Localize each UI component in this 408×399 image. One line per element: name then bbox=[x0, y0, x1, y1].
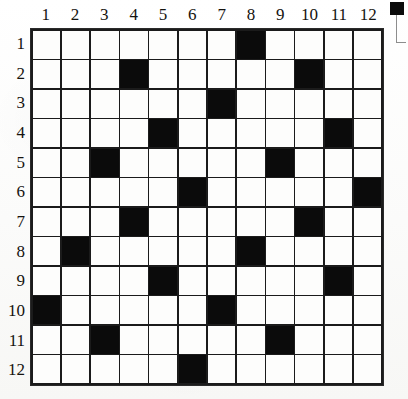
grid-cell-r9c4[interactable] bbox=[120, 267, 148, 295]
grid-cell-r9c8[interactable] bbox=[237, 267, 265, 295]
grid-cell-r12c5[interactable] bbox=[149, 355, 177, 383]
grid-cell-r7c6[interactable] bbox=[179, 208, 207, 236]
grid-cell-r12c6[interactable] bbox=[179, 355, 207, 383]
grid-cell-r11c10[interactable] bbox=[295, 326, 323, 354]
grid-cell-r9c1[interactable] bbox=[33, 267, 61, 295]
grid-cell-r2c9[interactable] bbox=[266, 60, 294, 88]
grid-cell-r4c8[interactable] bbox=[237, 119, 265, 147]
grid-cell-r8c2[interactable] bbox=[62, 237, 90, 265]
grid-cell-r2c1[interactable] bbox=[33, 60, 61, 88]
grid-cell-r7c7[interactable] bbox=[208, 208, 236, 236]
grid-cell-r9c10[interactable] bbox=[295, 267, 323, 295]
grid-cell-r1c1[interactable] bbox=[33, 31, 61, 59]
grid-cell-r4c12[interactable] bbox=[354, 119, 382, 147]
grid-cell-r9c9[interactable] bbox=[266, 267, 294, 295]
grid-cell-r5c8[interactable] bbox=[237, 149, 265, 177]
grid-cell-r12c8[interactable] bbox=[237, 355, 265, 383]
grid-cell-r12c10[interactable] bbox=[295, 355, 323, 383]
grid-cell-r8c1[interactable] bbox=[33, 237, 61, 265]
grid-cell-r10c3[interactable] bbox=[91, 296, 119, 324]
grid-cell-r7c12[interactable] bbox=[354, 208, 382, 236]
grid-cell-r11c6[interactable] bbox=[179, 326, 207, 354]
grid-cell-r4c10[interactable] bbox=[295, 119, 323, 147]
grid-cell-r9c12[interactable] bbox=[354, 267, 382, 295]
grid-cell-r2c7[interactable] bbox=[208, 60, 236, 88]
grid-cell-r12c4[interactable] bbox=[120, 355, 148, 383]
grid-cell-r3c1[interactable] bbox=[33, 90, 61, 118]
grid-cell-r6c7[interactable] bbox=[208, 178, 236, 206]
grid-cell-r3c8[interactable] bbox=[237, 90, 265, 118]
grid-cell-r6c1[interactable] bbox=[33, 178, 61, 206]
grid-cell-r10c12[interactable] bbox=[354, 296, 382, 324]
grid-cell-r11c2[interactable] bbox=[62, 326, 90, 354]
grid-cell-r9c5[interactable] bbox=[149, 267, 177, 295]
grid-cell-r11c5[interactable] bbox=[149, 326, 177, 354]
grid-cell-r12c7[interactable] bbox=[208, 355, 236, 383]
grid-cell-r3c6[interactable] bbox=[179, 90, 207, 118]
grid-cell-r8c10[interactable] bbox=[295, 237, 323, 265]
grid-cell-r1c2[interactable] bbox=[62, 31, 90, 59]
grid-cell-r6c6[interactable] bbox=[179, 178, 207, 206]
grid-cell-r7c1[interactable] bbox=[33, 208, 61, 236]
grid-cell-r8c9[interactable] bbox=[266, 237, 294, 265]
grid-cell-r9c6[interactable] bbox=[179, 267, 207, 295]
grid-cell-r12c12[interactable] bbox=[354, 355, 382, 383]
grid-cell-r10c10[interactable] bbox=[295, 296, 323, 324]
grid-cell-r1c8[interactable] bbox=[237, 31, 265, 59]
grid-cell-r4c4[interactable] bbox=[120, 119, 148, 147]
grid-cell-r2c3[interactable] bbox=[91, 60, 119, 88]
grid-cell-r3c10[interactable] bbox=[295, 90, 323, 118]
grid-cell-r11c12[interactable] bbox=[354, 326, 382, 354]
grid-cell-r11c3[interactable] bbox=[91, 326, 119, 354]
grid-cell-r3c2[interactable] bbox=[62, 90, 90, 118]
grid-cell-r7c10[interactable] bbox=[295, 208, 323, 236]
grid-cell-r5c7[interactable] bbox=[208, 149, 236, 177]
grid-cell-r7c9[interactable] bbox=[266, 208, 294, 236]
grid-cell-r8c6[interactable] bbox=[179, 237, 207, 265]
grid-cell-r11c7[interactable] bbox=[208, 326, 236, 354]
grid-cell-r1c4[interactable] bbox=[120, 31, 148, 59]
grid-cell-r9c7[interactable] bbox=[208, 267, 236, 295]
grid-cell-r11c11[interactable] bbox=[325, 326, 353, 354]
grid-cell-r7c4[interactable] bbox=[120, 208, 148, 236]
grid-cell-r10c11[interactable] bbox=[325, 296, 353, 324]
grid-cell-r5c2[interactable] bbox=[62, 149, 90, 177]
grid-cell-r8c11[interactable] bbox=[325, 237, 353, 265]
grid-cell-r1c10[interactable] bbox=[295, 31, 323, 59]
grid-cell-r2c2[interactable] bbox=[62, 60, 90, 88]
grid-cell-r5c9[interactable] bbox=[266, 149, 294, 177]
grid-cell-r5c10[interactable] bbox=[295, 149, 323, 177]
grid-cell-r10c5[interactable] bbox=[149, 296, 177, 324]
grid-cell-r4c3[interactable] bbox=[91, 119, 119, 147]
grid-cell-r2c5[interactable] bbox=[149, 60, 177, 88]
grid-cell-r1c5[interactable] bbox=[149, 31, 177, 59]
grid-cell-r6c4[interactable] bbox=[120, 178, 148, 206]
grid-cell-r10c9[interactable] bbox=[266, 296, 294, 324]
grid-cell-r12c1[interactable] bbox=[33, 355, 61, 383]
grid-cell-r3c7[interactable] bbox=[208, 90, 236, 118]
grid-cell-r10c4[interactable] bbox=[120, 296, 148, 324]
grid-cell-r10c8[interactable] bbox=[237, 296, 265, 324]
grid-cell-r10c7[interactable] bbox=[208, 296, 236, 324]
grid-cell-r3c9[interactable] bbox=[266, 90, 294, 118]
grid-cell-r10c2[interactable] bbox=[62, 296, 90, 324]
grid-cell-r2c8[interactable] bbox=[237, 60, 265, 88]
grid-cell-r2c4[interactable] bbox=[120, 60, 148, 88]
grid-cell-r4c2[interactable] bbox=[62, 119, 90, 147]
grid-cell-r3c11[interactable] bbox=[325, 90, 353, 118]
grid-cell-r5c5[interactable] bbox=[149, 149, 177, 177]
grid-cell-r6c9[interactable] bbox=[266, 178, 294, 206]
grid-cell-r2c12[interactable] bbox=[354, 60, 382, 88]
grid-cell-r6c8[interactable] bbox=[237, 178, 265, 206]
grid-cell-r5c1[interactable] bbox=[33, 149, 61, 177]
grid-cell-r3c3[interactable] bbox=[91, 90, 119, 118]
grid-cell-r8c4[interactable] bbox=[120, 237, 148, 265]
grid-cell-r7c5[interactable] bbox=[149, 208, 177, 236]
puzzle-grid[interactable] bbox=[31, 29, 383, 385]
grid-cell-r7c8[interactable] bbox=[237, 208, 265, 236]
grid-cell-r3c12[interactable] bbox=[354, 90, 382, 118]
grid-cell-r5c12[interactable] bbox=[354, 149, 382, 177]
grid-cell-r5c4[interactable] bbox=[120, 149, 148, 177]
grid-cell-r6c5[interactable] bbox=[149, 178, 177, 206]
grid-cell-r7c11[interactable] bbox=[325, 208, 353, 236]
